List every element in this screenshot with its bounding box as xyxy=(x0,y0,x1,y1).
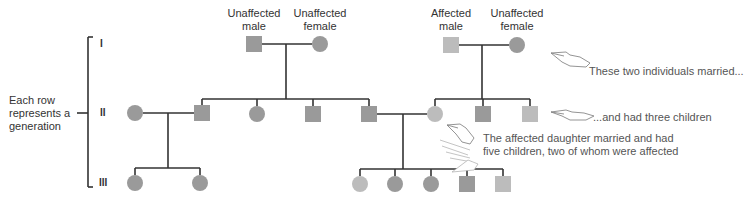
generation-label-ii: II xyxy=(100,107,106,118)
gen3-female-4 xyxy=(423,176,439,192)
annotation-daughter-line1: The affected daughter married and had xyxy=(483,132,674,145)
gen1-unaffected-male xyxy=(246,36,262,52)
label-line: male xyxy=(419,20,483,33)
label-unaffected-male: Unaffected male xyxy=(222,7,286,33)
pointing-hand-icon xyxy=(440,140,478,172)
label-affected-male: Affected male xyxy=(419,7,483,33)
label-line: Unaffected xyxy=(222,7,286,20)
generation-side-label: Each row represents a generation xyxy=(9,94,70,133)
label-unaffected-female: Unaffected female xyxy=(288,7,352,33)
annotation-three-children: ...and had three children xyxy=(593,111,712,124)
side-label-line: Each row xyxy=(9,94,70,107)
gen3-male-1 xyxy=(459,176,475,192)
annotation-daughter-line2: five children, two of whom were affected xyxy=(483,145,678,158)
generation-label-i: I xyxy=(100,38,103,49)
gen3-female-1 xyxy=(127,175,143,191)
label-line: male xyxy=(222,20,286,33)
gen3-affected-male xyxy=(495,176,511,192)
generation-label-iii: III xyxy=(99,177,107,188)
gen2-male-1 xyxy=(194,105,210,121)
gen1-unaffected-female xyxy=(312,36,328,52)
label-line: Unaffected xyxy=(288,7,352,20)
pointing-hand-icon xyxy=(447,124,474,144)
label-line: Unaffected xyxy=(485,7,549,20)
side-label-line: represents a xyxy=(9,107,70,120)
label-line: female xyxy=(485,20,549,33)
gen1-affected-male xyxy=(443,37,459,53)
gen2-affected-son xyxy=(522,106,538,122)
label-line: female xyxy=(288,20,352,33)
gen2-affected-daughter xyxy=(427,106,443,122)
gen2-female-spouse xyxy=(127,105,143,121)
gen2-female-1 xyxy=(249,106,265,122)
gen2-male-3 xyxy=(361,106,377,122)
pointing-hand-icon xyxy=(551,110,594,120)
side-label-line: generation xyxy=(9,120,70,133)
annotation-married: These two individuals married... xyxy=(589,65,744,78)
gen3-female-3 xyxy=(387,176,403,192)
label-unaffected-female-2: Unaffected female xyxy=(485,7,549,33)
gen2-unaffected-son xyxy=(475,106,491,122)
gen3-female-2 xyxy=(192,175,208,191)
label-line: Affected xyxy=(419,7,483,20)
gen2-male-2 xyxy=(305,106,321,122)
gen3-affected-female xyxy=(352,176,368,192)
gen1-unaffected-female-2 xyxy=(509,37,525,53)
pointing-hand-icon xyxy=(551,52,590,67)
